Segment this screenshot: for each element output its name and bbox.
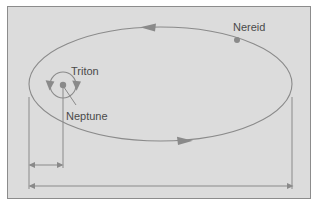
label-neptune: Neptune xyxy=(66,110,108,122)
triton-direction-arrow-left xyxy=(46,80,55,90)
triton-direction-arrow-right xyxy=(72,81,81,91)
orbit-direction-arrow-bottom xyxy=(177,137,193,145)
nereid-orbit-ellipse xyxy=(29,27,292,141)
diagram-frame: Nereid Triton Neptune xyxy=(7,6,311,199)
label-nereid: Nereid xyxy=(233,21,265,33)
label-triton: Triton xyxy=(71,65,99,77)
figure-root: Nereid Triton Neptune xyxy=(0,0,319,210)
orbital-diagram: Nereid Triton Neptune xyxy=(8,7,310,198)
neptune-leader-line xyxy=(64,87,77,106)
orbit-direction-arrow-top xyxy=(140,23,156,31)
nereid-body-dot xyxy=(234,37,240,43)
dimension-long-arrow-right xyxy=(287,183,294,189)
